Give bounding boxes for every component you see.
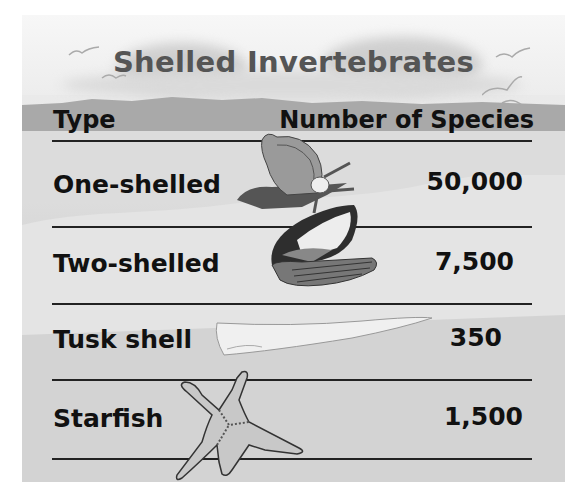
row-species-two-shelled: 7,500 xyxy=(435,247,514,276)
row-species-starfish: 1,500 xyxy=(444,402,523,431)
starfish-icon xyxy=(157,370,317,482)
page-title: Shelled Invertebrates xyxy=(22,45,565,79)
table-panel: Shelled Invertebrates Type Number of Spe… xyxy=(22,15,565,482)
row-species-one-shelled: 50,000 xyxy=(427,167,523,196)
row-type-tusk-shell: Tusk shell xyxy=(53,325,192,354)
row-type-two-shelled: Two-shelled xyxy=(53,249,220,278)
clam-icon xyxy=(262,200,392,300)
row-type-starfish: Starfish xyxy=(53,404,163,433)
row-species-tusk-shell: 350 xyxy=(450,323,502,352)
tusk-shell-icon xyxy=(212,313,442,363)
divider xyxy=(52,303,532,305)
row-type-one-shelled: One-shelled xyxy=(53,170,221,199)
column-header-type: Type xyxy=(53,106,116,134)
